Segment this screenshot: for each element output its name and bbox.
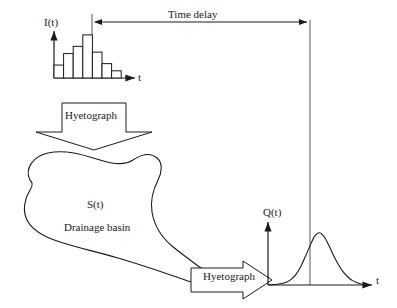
hyetograph-bar <box>54 65 64 78</box>
hyetograph-bar <box>102 64 112 78</box>
hydrology-diagram: Time delay I(t) t Hyetograph S(t) Draina… <box>0 0 397 308</box>
time-delay-label: Time delay <box>168 9 217 20</box>
discharge-axis-label: Q(t) <box>263 207 281 218</box>
hyetograph-bar <box>83 35 93 78</box>
hyetograph-down-label: Hyetograph <box>65 110 117 121</box>
hyetograph-bar <box>64 54 74 78</box>
hyetograph-bar <box>112 71 122 78</box>
hyetograph-right-label: Hyetograph <box>203 271 255 282</box>
hyetograph-bars <box>54 35 121 78</box>
drainage-basin-label: Drainage basin <box>64 222 130 233</box>
drainage-basin-outline <box>24 152 216 286</box>
hydrograph-time-axis-label: t <box>376 275 379 286</box>
hyetograph-bar <box>73 46 83 78</box>
diagram-canvas <box>0 0 397 308</box>
hydrograph-curve <box>268 233 362 285</box>
hyetograph-time-axis-label: t <box>138 72 141 83</box>
hydrograph-axes <box>268 222 372 285</box>
hyetograph-bar <box>92 52 102 78</box>
intensity-axis-label: I(t) <box>44 17 58 28</box>
basin-function-label: S(t) <box>87 199 104 210</box>
hydrograph-curve-group <box>268 233 362 285</box>
